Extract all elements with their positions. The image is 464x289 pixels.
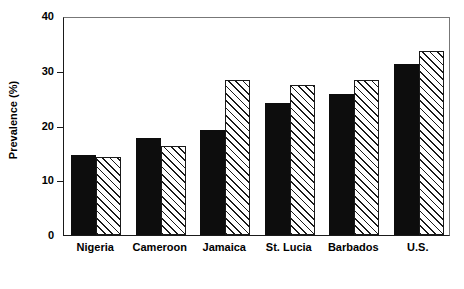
chart-figure: Prevalence (%) 010203040 NigeriaCameroon…	[0, 0, 464, 289]
bar-solid	[136, 138, 161, 235]
bar-group	[200, 18, 250, 235]
x-axis-tick-label: U.S.	[386, 241, 451, 254]
bar-solid	[265, 103, 290, 235]
y-axis-tick-label: 10	[26, 175, 54, 186]
bar-solid	[71, 155, 96, 235]
bar-hatched	[419, 51, 444, 236]
bar-hatched	[290, 85, 315, 235]
y-axis-tick-label: 20	[26, 121, 54, 132]
y-axis-tick-labels: 010203040	[26, 0, 54, 289]
x-axis-tick-label: Barbados	[321, 241, 386, 254]
x-axis-tick-label: Jamaica	[192, 241, 257, 254]
bar-groups	[64, 18, 449, 235]
y-axis-tick-label: 30	[26, 66, 54, 77]
y-axis-title: Prevalence (%)	[0, 0, 26, 240]
bar-group	[329, 18, 379, 235]
y-axis-title-text: Prevalence (%)	[7, 81, 19, 159]
bar-solid	[200, 130, 225, 235]
bar-solid	[329, 94, 354, 235]
x-axis-tick-label: Nigeria	[63, 241, 128, 254]
y-axis-tick-label: 0	[26, 230, 54, 241]
bar-solid	[394, 64, 419, 235]
bar-group	[136, 18, 186, 235]
bar-group	[265, 18, 315, 235]
bar-hatched	[96, 157, 121, 235]
y-axis-tick-label: 40	[26, 11, 54, 22]
plot-area	[63, 17, 450, 236]
bar-hatched	[354, 80, 379, 235]
bar-hatched	[161, 146, 186, 235]
bar-group	[394, 18, 444, 235]
bar-hatched	[225, 80, 250, 235]
x-axis-tick-label: St. Lucia	[257, 241, 322, 254]
x-axis-tick-labels: NigeriaCameroonJamaicaSt. LuciaBarbadosU…	[63, 241, 450, 261]
x-axis-tick-label: Cameroon	[128, 241, 193, 254]
bar-group	[71, 18, 121, 235]
